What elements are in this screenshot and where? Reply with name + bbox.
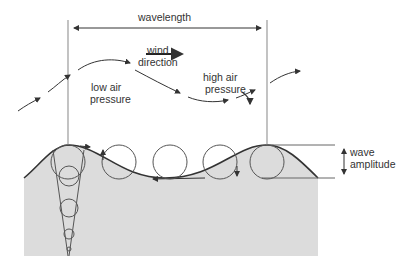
low-pressure-label-line1: low air	[91, 81, 121, 93]
wind-streamline-5	[188, 97, 228, 102]
wind-streamline-4	[135, 70, 180, 93]
wind-streamline-3	[78, 60, 130, 70]
wind-streamline-2	[48, 75, 70, 92]
wavelength-label: wavelength	[138, 11, 191, 23]
ocean-wave-diagram: wavelength wind direction low air pressu…	[0, 0, 410, 268]
wind-streamline-1	[18, 98, 40, 111]
high-pressure-label-line1: high air	[203, 71, 237, 83]
wind-streamline-7	[270, 71, 300, 83]
diagram-graphics	[0, 0, 410, 268]
amplitude-label-line1: wave	[350, 146, 375, 158]
wind-direction-label-line1: wind	[147, 44, 169, 56]
high-pressure-label-line2: pressure	[205, 83, 246, 95]
amplitude-label-line2: amplitude	[350, 158, 396, 170]
low-pressure-label-line2: pressure	[90, 93, 131, 105]
wind-direction-label-line2: direction	[138, 56, 178, 68]
orbit-circle-3	[153, 145, 187, 179]
